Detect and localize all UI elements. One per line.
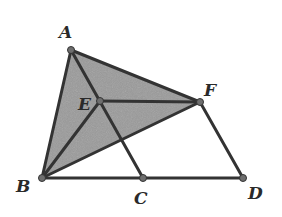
segment-fd xyxy=(200,102,243,178)
point-b xyxy=(39,175,46,182)
label-c: C xyxy=(134,188,148,208)
label-a: A xyxy=(57,22,72,42)
segment-ef xyxy=(100,101,200,102)
point-f xyxy=(197,99,204,106)
point-a xyxy=(68,47,75,54)
geometry-diagram: A E F B C D xyxy=(0,0,282,217)
label-b: B xyxy=(15,176,30,196)
label-e: E xyxy=(77,94,92,114)
label-f: F xyxy=(203,80,218,100)
point-c xyxy=(140,175,147,182)
point-e xyxy=(97,98,104,105)
label-d: D xyxy=(247,183,263,203)
diagram-svg: A E F B C D xyxy=(0,0,282,217)
point-d xyxy=(240,175,247,182)
